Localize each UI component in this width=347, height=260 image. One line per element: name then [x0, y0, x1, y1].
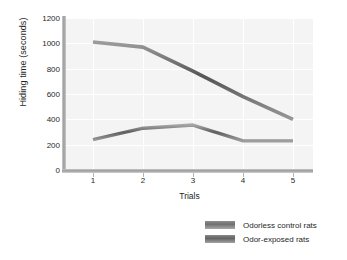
- odorless-swatch-icon: [205, 221, 235, 229]
- plot-area: [66, 18, 313, 170]
- y-tick-label-200: 200: [20, 140, 66, 149]
- x-tick-label-5: 5: [283, 176, 303, 185]
- x-axis-spine: [62, 169, 313, 173]
- y-tick-label-600: 600: [20, 90, 66, 99]
- chart-legend: Odorless control rats Odor-exposed rats: [205, 219, 317, 247]
- x-tick-label-2: 2: [133, 176, 153, 185]
- legend-label-odor-exposed-rats: Odor-exposed rats: [243, 235, 309, 244]
- series-layer: [66, 18, 313, 170]
- y-tick-label-1000: 1000: [20, 39, 66, 48]
- x-tick-label-3: 3: [183, 176, 203, 185]
- legend-item-odor-exposed-rats: Odor-exposed rats: [205, 233, 317, 245]
- y-tick-label-0: 0: [20, 166, 66, 175]
- line-chart-figure: Hiding time (seconds) 1200 1000 800 600 …: [0, 0, 347, 260]
- y-tick-label-800: 800: [20, 64, 66, 73]
- legend-label-odorless-control-rats: Odorless control rats: [243, 221, 317, 230]
- odor-exposed-swatch-icon: [205, 235, 235, 243]
- x-tick-label-1: 1: [83, 176, 103, 185]
- series-line-odor-exposed-rats: [93, 42, 293, 119]
- x-tick-label-4: 4: [233, 176, 253, 185]
- y-tick-label-1200: 1200: [20, 14, 66, 23]
- series-line-odorless-control-rats: [93, 125, 293, 141]
- y-tick-label-400: 400: [20, 115, 66, 124]
- x-axis-title: Trials: [66, 191, 313, 201]
- y-axis-spine: [62, 16, 66, 173]
- legend-item-odorless-control-rats: Odorless control rats: [205, 219, 317, 231]
